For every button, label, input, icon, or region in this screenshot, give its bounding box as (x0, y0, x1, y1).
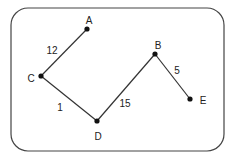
edge-d-b (97, 54, 155, 121)
node-label: E (200, 95, 207, 106)
node-label: B (155, 40, 162, 51)
edge-weight-label: 12 (46, 45, 58, 56)
node-label: D (94, 131, 101, 142)
edge-c-d (41, 76, 97, 121)
diagram-border (11, 8, 224, 151)
edge-weight-label: 5 (174, 65, 180, 76)
node-label: A (86, 15, 93, 26)
node-label: C (27, 73, 34, 84)
node-a (84, 26, 89, 31)
node-b (152, 51, 157, 56)
graph-diagram: 121155 ABCDE (0, 0, 232, 157)
node-e (187, 96, 192, 101)
edge-weight-label: 1 (57, 102, 63, 113)
node-c (38, 73, 43, 78)
edge-weight-label: 15 (119, 98, 131, 109)
edge-b-e (155, 54, 190, 99)
node-d (94, 118, 99, 123)
